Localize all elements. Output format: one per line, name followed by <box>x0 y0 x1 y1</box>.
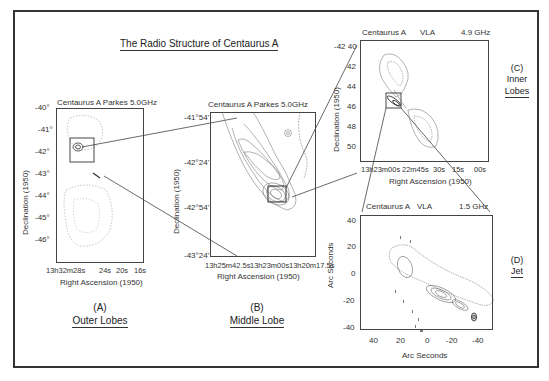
panel-c-letter: (C) <box>500 63 534 74</box>
panel-a-caption: (A) Outer Lobes <box>70 302 130 327</box>
panel-b-xtick: 13h23m00s <box>250 262 289 270</box>
panel-a-xtick: 24s <box>99 267 111 275</box>
panel-a-xtick: 13h32m28s <box>46 267 85 275</box>
panel-c-xtick: 15s <box>452 166 464 174</box>
panel-d-header-mid: VLA <box>417 203 432 211</box>
panel-b-ylabel: Declination (1950) <box>172 169 181 234</box>
panel-d-header-right: 1.5 GHz <box>459 203 488 211</box>
panel-a-xlabel: Right Ascension (1950) <box>60 279 143 287</box>
panel-d-xtick: 40 <box>369 337 378 345</box>
panel-d-ytick: 0 <box>351 270 355 278</box>
panel-c-ytick: 46 <box>347 103 356 111</box>
panel-c-ytick: 50 <box>347 143 356 151</box>
panel-c-xtick: 30s <box>433 166 445 174</box>
panel-b-xlabel: Right Ascension (1950) <box>217 273 300 281</box>
panel-b-plot <box>210 112 316 257</box>
panel-b-caption: (B) Middle Lobe <box>222 302 292 327</box>
panel-d-xtick: 20 <box>396 337 405 345</box>
panel-c-xtick: 22m45s <box>402 166 429 174</box>
panel-b-letter: (B) <box>222 302 292 315</box>
panel-d-ytick: -20 <box>343 297 355 305</box>
panel-a-xtick: 20s <box>116 267 128 275</box>
panel-d-xtick: -20 <box>446 337 458 345</box>
panel-d-ytick: 20 <box>347 243 356 251</box>
panel-d-letter: (D) <box>502 255 532 266</box>
panel-a-ytick: -44° <box>35 192 50 200</box>
panel-c-ytick: -42 40 <box>334 43 357 51</box>
panel-d-ytick: -40 <box>343 324 355 332</box>
panel-c-xtick: 13h23m00s <box>361 166 400 174</box>
panel-c-name-line2: Lobes <box>505 86 530 98</box>
panel-d-header-left: Centaurus A <box>366 203 410 211</box>
panel-c-header-mid: VLA <box>420 29 435 37</box>
panel-a-ytick: -40° <box>35 104 50 112</box>
panel-b-ytick: -42°54' <box>184 204 209 212</box>
panel-c-plot <box>360 40 489 162</box>
panel-a-plot <box>56 108 144 263</box>
panel-a-ytick: -45° <box>35 214 50 222</box>
panel-d-caption: (D) Jet <box>502 255 532 278</box>
panel-c-ylabel: Declination (1950) <box>332 87 341 152</box>
panel-b-ytick: -41°54' <box>184 114 209 122</box>
panel-c-ytick: 44 <box>347 83 356 91</box>
panel-d-xtick: 0 <box>425 337 429 345</box>
panel-c-xlabel: Right Ascension (1950) <box>389 178 472 186</box>
panel-c-header-left: Centaurus A <box>362 29 406 37</box>
panel-a-ylabel: Declination (1950) <box>21 170 30 235</box>
panel-d-name: Jet <box>511 266 523 278</box>
panel-c-ytick: 42 <box>347 63 356 71</box>
panel-a-header: Centaurus A Parkes 5.0GHz <box>57 99 157 107</box>
panel-a-ytick: -46° <box>35 236 50 244</box>
panel-d-xlabel: Arc Seconds <box>402 352 447 360</box>
panel-a-ytick: -42° <box>35 148 50 156</box>
panel-a-letter: (A) <box>70 302 130 315</box>
panel-c-name-line1: Inner <box>500 74 534 85</box>
panel-c-header-right: 4.9 GHz <box>461 29 490 37</box>
panel-d-ytick: 40 <box>347 217 356 225</box>
panel-a-ytick: -41° <box>38 126 53 134</box>
panel-c-caption: (C) Inner Lobes <box>500 63 534 97</box>
panel-a-ytick: -43° <box>35 170 50 178</box>
panel-d-plot <box>360 215 493 330</box>
panel-b-xtick: 13h25m42.5s <box>205 262 250 270</box>
panel-b-header: Centaurus A Parkes 5.0GHz <box>208 101 308 109</box>
panel-b-name: Middle Lobe <box>230 315 284 328</box>
panel-c-xtick: 00s <box>474 166 486 174</box>
panel-b-ytick: -42°24' <box>184 159 209 167</box>
panel-a-xtick: 16s <box>134 267 146 275</box>
panel-b-ytick: -43°24' <box>184 252 209 260</box>
panel-d-xtick: -40 <box>472 337 484 345</box>
panel-d-ylabel: Arc Seconds <box>326 243 335 288</box>
panel-a-name: Outer Lobes <box>72 315 127 328</box>
panel-c-ytick: 48 <box>347 123 356 131</box>
